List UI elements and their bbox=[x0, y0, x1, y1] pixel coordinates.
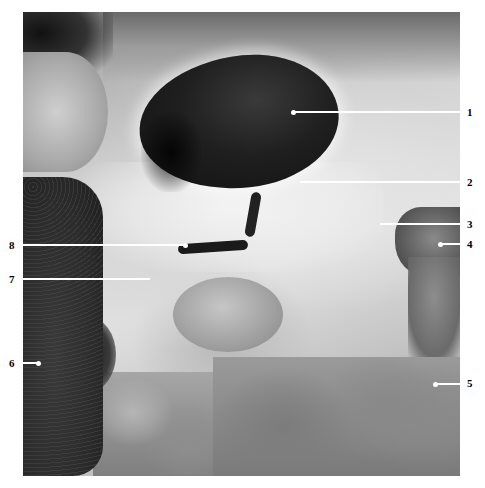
spleen-texture bbox=[23, 177, 103, 476]
leader-dot-5 bbox=[433, 382, 438, 387]
leader-dot-8 bbox=[183, 243, 188, 248]
leader-dot-4 bbox=[438, 242, 443, 247]
leader-line-3 bbox=[380, 223, 460, 225]
leader-dot-6 bbox=[36, 361, 41, 366]
leader-line-7 bbox=[23, 278, 150, 280]
leader-line-4 bbox=[440, 243, 460, 245]
leader-line-5 bbox=[435, 383, 460, 385]
leader-line-1 bbox=[293, 111, 460, 113]
leader-line-2 bbox=[300, 181, 460, 183]
leader-dot-1 bbox=[291, 110, 296, 115]
right-lower-organ bbox=[408, 257, 460, 357]
leader-line-8 bbox=[23, 244, 185, 246]
intestinal-loops-lower-left bbox=[93, 372, 233, 476]
label-5: 5 bbox=[467, 377, 473, 389]
label-8: 8 bbox=[9, 239, 15, 251]
kidney-hilum bbox=[141, 112, 201, 192]
label-4: 4 bbox=[467, 238, 473, 250]
label-7: 7 bbox=[9, 273, 15, 285]
label-1: 1 bbox=[467, 106, 473, 118]
label-6: 6 bbox=[9, 357, 15, 369]
anatomical-figure: 12345678 bbox=[0, 0, 485, 488]
label-3: 3 bbox=[467, 218, 473, 230]
label-2: 2 bbox=[467, 176, 473, 188]
upper-left-organ bbox=[23, 52, 108, 172]
intestinal-loop-mid bbox=[173, 277, 283, 352]
intestinal-loops-lower-right bbox=[213, 357, 460, 476]
